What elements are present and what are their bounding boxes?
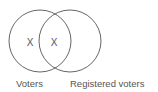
intersection-mark: X (51, 37, 58, 48)
registered-voters-circle (39, 10, 101, 72)
voters-circle (9, 10, 71, 72)
voters-label: Voters (16, 78, 43, 89)
venn-diagram: X X Voters Registered voters (0, 0, 158, 92)
registered-voters-label: Registered voters (70, 78, 145, 89)
voters-only-mark: X (27, 37, 34, 48)
